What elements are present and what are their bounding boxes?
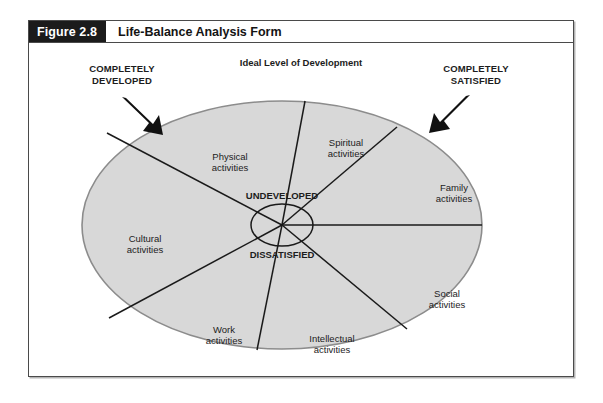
segment-label-intellectual: Intellectual activities — [284, 333, 380, 355]
life-balance-diagram: Ideal Level of Development COMPLETELY DE… — [29, 43, 573, 377]
figure-title: Life-Balance Analysis Form — [106, 21, 281, 42]
segment-physical-line1: Physical — [185, 151, 275, 162]
segment-social-line1: Social — [402, 288, 492, 299]
segment-intellectual-line2: activities — [284, 344, 380, 355]
segment-label-work: Work activities — [179, 324, 269, 346]
segment-cultural-line1: Cultural — [100, 233, 190, 244]
figure-header: Figure 2.8 Life-Balance Analysis Form — [29, 21, 573, 43]
callout-developed-line1: COMPLETELY — [57, 63, 187, 75]
segment-physical-line2: activities — [185, 162, 275, 173]
segment-cultural-line2: activities — [100, 244, 190, 255]
callout-developed-line2: DEVELOPED — [57, 75, 187, 87]
callout-completely-satisfied: COMPLETELY SATISFIED — [411, 63, 541, 87]
segment-family-line1: Family — [409, 182, 499, 193]
figure-number-badge: Figure 2.8 — [29, 21, 106, 42]
segment-spiritual-line2: activities — [301, 148, 391, 159]
segment-label-physical: Physical activities — [185, 151, 275, 173]
segment-spiritual-line1: Spiritual — [301, 137, 391, 148]
life-balance-wheel-svg — [29, 43, 573, 377]
center-label-undeveloped: UNDEVELOPED — [222, 190, 342, 201]
segment-label-social: Social activities — [402, 288, 492, 310]
segment-label-family: Family activities — [409, 182, 499, 204]
center-label-dissatisfied: DISSATISFIED — [222, 249, 342, 260]
figure-frame: Figure 2.8 Life-Balance Analysis Form — [28, 20, 574, 377]
callout-completely-developed: COMPLETELY DEVELOPED — [57, 63, 187, 87]
segment-work-line1: Work — [179, 324, 269, 335]
callout-satisfied-line1: COMPLETELY — [411, 63, 541, 75]
arrow-completely-satisfied-icon — [429, 95, 470, 133]
segment-label-cultural: Cultural activities — [100, 233, 190, 255]
callout-satisfied-line2: SATISFIED — [411, 75, 541, 87]
segment-work-line2: activities — [179, 335, 269, 346]
segment-intellectual-line1: Intellectual — [284, 333, 380, 344]
segment-family-line2: activities — [409, 193, 499, 204]
arrow-completely-developed-icon — [122, 97, 163, 135]
segment-label-spiritual: Spiritual activities — [301, 137, 391, 159]
segment-social-line2: activities — [402, 299, 492, 310]
